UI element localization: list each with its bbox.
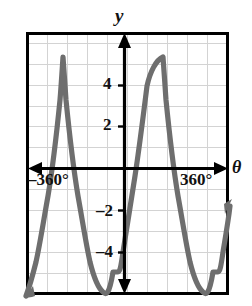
x-tick-label-neg360: –360°	[28, 171, 69, 188]
y-tick-label-2: 2	[103, 116, 112, 133]
theta-axis-label: θ	[232, 158, 241, 176]
trigonometric-graph	[0, 0, 252, 306]
x-tick-label-360: 360°	[180, 171, 212, 188]
y-tick-label-neg4: –4	[96, 243, 113, 260]
y-axis-label: y	[115, 6, 123, 25]
y-tick-label-4: 4	[103, 75, 112, 92]
y-tick-label-neg2: –2	[96, 202, 113, 219]
